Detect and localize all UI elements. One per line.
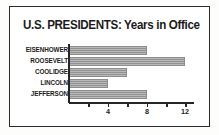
category-label: EISENHOWER — [0, 45, 68, 54]
y-axis-line — [68, 44, 70, 103]
bar-jefferson — [69, 90, 147, 99]
x-tick-label: 12 — [176, 107, 194, 117]
x-tick-label: 4 — [99, 107, 117, 117]
bar-roosevelt — [69, 57, 185, 66]
category-label: ROOSEVELT — [0, 56, 68, 65]
x-tick — [88, 103, 90, 107]
bar-row: ROOSEVELT — [0, 57, 219, 67]
category-label: JEFFERSON — [0, 89, 68, 98]
bar-row: COOLIDGE — [0, 68, 219, 78]
plot-area: EISENHOWER ROOSEVELT COOLIDGE LINCOLN JE… — [0, 0, 219, 135]
chart-figure: U.S. PRESIDENTS: Years in Office EISENHO… — [0, 0, 219, 135]
category-label: LINCOLN — [0, 78, 68, 87]
bar-row: JEFFERSON — [0, 90, 219, 100]
x-tick — [127, 103, 129, 107]
bar-lincoln — [69, 79, 108, 88]
bar-row: EISENHOWER — [0, 46, 219, 56]
bar-eisenhower — [69, 46, 147, 55]
bar-coolidge — [69, 68, 127, 77]
x-tick-label: 8 — [138, 107, 156, 117]
category-label: COOLIDGE — [0, 67, 68, 76]
x-tick — [166, 103, 168, 107]
bar-row: LINCOLN — [0, 79, 219, 89]
